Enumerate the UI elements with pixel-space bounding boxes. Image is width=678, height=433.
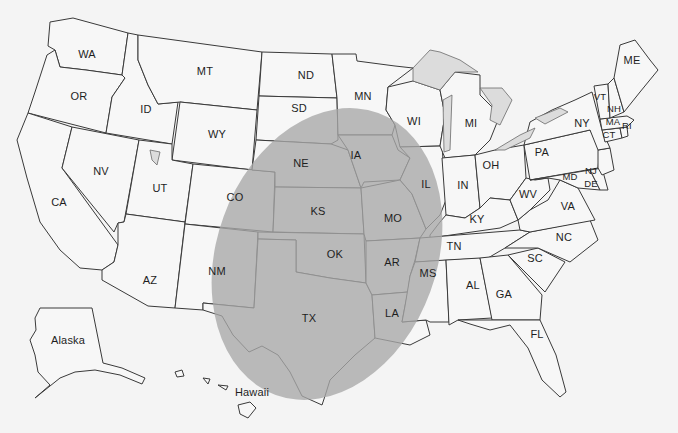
label-TN: TN [446,240,461,252]
label-TX: TX [302,312,316,324]
label-NY: NY [574,117,590,129]
state-ME[interactable] [614,40,658,112]
label-NE: NE [293,157,309,169]
label-KS: KS [310,205,325,217]
state-NJ[interactable] [598,148,614,175]
label-WY: WY [208,128,226,140]
label-LA: LA [385,307,399,319]
label-SD: SD [291,102,307,114]
label-MA: MA [606,116,621,127]
label-PA: PA [535,146,549,158]
label-WA: WA [78,48,96,60]
label-Alaska: Alaska [51,334,85,346]
label-OR: OR [71,90,88,102]
label-AR: AR [384,256,400,268]
label-ID: ID [140,103,151,115]
label-OH: OH [483,159,500,171]
label-KY: KY [469,213,484,225]
label-ND: ND [298,69,314,81]
label-WI: WI [407,115,421,127]
label-NH: NH [607,103,621,114]
label-FL: FL [530,328,543,340]
label-MO: MO [384,212,402,224]
label-MD: MD [562,171,577,182]
label-CO: CO [227,191,244,203]
label-IN: IN [457,179,468,191]
map-canvas [0,0,678,433]
label-AZ: AZ [143,274,157,286]
label-CT: CT [602,129,615,140]
label-NM: NM [208,265,226,277]
label-VT: VT [594,91,607,102]
label-NC: NC [556,231,572,243]
label-MT: MT [197,65,213,77]
us-map: WA OR CA ID NV MT WY UT AZ CO NM ND SD N… [0,0,678,433]
label-WV: WV [519,188,537,200]
label-UT: UT [152,182,167,194]
label-RI: RI [622,120,632,131]
label-NJ: NJ [585,165,597,176]
state-FL[interactable] [458,320,566,397]
label-CA: CA [51,196,67,208]
label-MS: MS [420,267,437,279]
label-ME: ME [624,54,641,66]
label-NV: NV [93,165,109,177]
label-GA: GA [496,288,512,300]
label-IL: IL [421,178,431,190]
label-MN: MN [354,90,372,102]
label-IA: IA [351,149,362,161]
label-SC: SC [527,252,543,264]
label-Hawaii: Hawaii [235,386,269,398]
label-VA: VA [561,200,575,212]
label-DE: DE [584,178,598,189]
label-AL: AL [466,279,480,291]
label-OK: OK [327,248,343,260]
label-MI: MI [465,117,478,129]
state-Alaska[interactable] [30,308,145,398]
